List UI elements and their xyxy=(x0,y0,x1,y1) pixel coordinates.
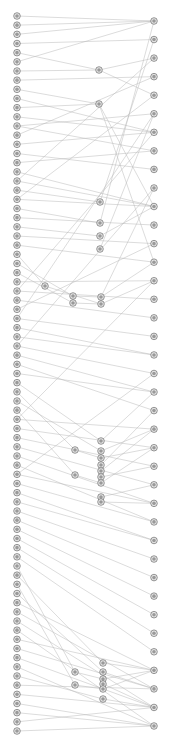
graph-node[interactable] xyxy=(14,416,21,423)
graph-node[interactable] xyxy=(14,86,21,93)
graph-node[interactable] xyxy=(14,260,21,267)
graph-node[interactable] xyxy=(98,301,105,308)
graph-node[interactable] xyxy=(151,352,158,359)
graph-node[interactable] xyxy=(14,581,21,588)
graph-node[interactable] xyxy=(14,187,21,194)
graph-node[interactable] xyxy=(70,293,77,300)
graph-node[interactable] xyxy=(14,517,21,524)
graph-node[interactable] xyxy=(14,31,21,38)
graph-node[interactable] xyxy=(151,148,158,155)
graph-node[interactable] xyxy=(151,407,158,414)
graph-node[interactable] xyxy=(151,18,158,25)
graph-node[interactable] xyxy=(72,682,79,689)
graph-node[interactable] xyxy=(151,704,158,711)
graph-node[interactable] xyxy=(14,407,21,414)
graph-node[interactable] xyxy=(100,686,107,693)
graph-node[interactable] xyxy=(14,132,21,139)
graph-node[interactable] xyxy=(14,196,21,203)
graph-node[interactable] xyxy=(14,224,21,231)
graph-node[interactable] xyxy=(70,300,77,307)
graph-node[interactable] xyxy=(100,660,107,667)
graph-node[interactable] xyxy=(42,283,49,290)
graph-node[interactable] xyxy=(151,259,158,266)
graph-node[interactable] xyxy=(97,233,104,240)
graph-node[interactable] xyxy=(14,572,21,579)
graph-node[interactable] xyxy=(72,447,79,454)
graph-node[interactable] xyxy=(151,667,158,674)
graph-node[interactable] xyxy=(72,669,79,676)
graph-node[interactable] xyxy=(14,205,21,212)
graph-node[interactable] xyxy=(14,499,21,506)
graph-node[interactable] xyxy=(14,645,21,652)
graph-node[interactable] xyxy=(14,315,21,322)
graph-node[interactable] xyxy=(151,36,158,43)
graph-node[interactable] xyxy=(151,92,158,99)
graph-node[interactable] xyxy=(14,169,21,176)
graph-node[interactable] xyxy=(151,444,158,451)
graph-node[interactable] xyxy=(14,68,21,75)
graph-node[interactable] xyxy=(98,480,105,487)
graph-node[interactable] xyxy=(151,185,158,192)
graph-node[interactable] xyxy=(98,438,105,445)
graph-node[interactable] xyxy=(100,669,107,676)
graph-node[interactable] xyxy=(14,324,21,331)
graph-node[interactable] xyxy=(14,150,21,157)
graph-node[interactable] xyxy=(151,370,158,377)
graph-node[interactable] xyxy=(14,563,21,570)
graph-node[interactable] xyxy=(14,700,21,707)
graph-node[interactable] xyxy=(14,508,21,515)
graph-node[interactable] xyxy=(98,474,105,481)
graph-node[interactable] xyxy=(14,618,21,625)
graph-node[interactable] xyxy=(14,636,21,643)
graph-node[interactable] xyxy=(14,471,21,478)
graph-node[interactable] xyxy=(14,379,21,386)
graph-node[interactable] xyxy=(97,199,104,206)
graph-node[interactable] xyxy=(14,214,21,221)
graph-node[interactable] xyxy=(14,709,21,716)
graph-node[interactable] xyxy=(151,315,158,322)
graph-node[interactable] xyxy=(14,95,21,102)
graph-node[interactable] xyxy=(14,389,21,396)
graph-node[interactable] xyxy=(14,123,21,130)
graph-node[interactable] xyxy=(14,673,21,680)
graph-node[interactable] xyxy=(151,389,158,396)
graph-node[interactable] xyxy=(151,686,158,693)
graph-node[interactable] xyxy=(14,178,21,185)
graph-node[interactable] xyxy=(98,462,105,469)
graph-node[interactable] xyxy=(151,222,158,229)
graph-node[interactable] xyxy=(98,455,105,462)
graph-node[interactable] xyxy=(14,590,21,597)
graph-node[interactable] xyxy=(14,370,21,377)
graph-node[interactable] xyxy=(98,448,105,455)
graph-node[interactable] xyxy=(14,251,21,258)
graph-node[interactable] xyxy=(14,480,21,487)
graph-node[interactable] xyxy=(14,104,21,111)
graph-node[interactable] xyxy=(98,294,105,301)
graph-node[interactable] xyxy=(151,203,158,210)
graph-node[interactable] xyxy=(151,556,158,563)
graph-node[interactable] xyxy=(14,141,21,148)
graph-node[interactable] xyxy=(14,77,21,84)
graph-node[interactable] xyxy=(14,489,21,496)
graph-node[interactable] xyxy=(14,269,21,276)
graph-node[interactable] xyxy=(100,696,107,703)
graph-node[interactable] xyxy=(14,49,21,56)
graph-node[interactable] xyxy=(14,361,21,368)
graph-node[interactable] xyxy=(14,434,21,441)
graph-node[interactable] xyxy=(14,13,21,20)
graph-node[interactable] xyxy=(14,334,21,341)
graph-node[interactable] xyxy=(151,110,158,117)
graph-node[interactable] xyxy=(151,611,158,618)
graph-node[interactable] xyxy=(151,630,158,637)
graph-node[interactable] xyxy=(151,73,158,80)
graph-node[interactable] xyxy=(14,114,21,121)
graph-node[interactable] xyxy=(14,682,21,689)
graph-node[interactable] xyxy=(151,277,158,284)
graph-node[interactable] xyxy=(14,288,21,295)
graph-node[interactable] xyxy=(14,279,21,286)
graph-node[interactable] xyxy=(14,343,21,350)
graph-node[interactable] xyxy=(14,599,21,606)
graph-node[interactable] xyxy=(97,246,104,253)
graph-node[interactable] xyxy=(151,574,158,581)
graph-node[interactable] xyxy=(14,444,21,451)
